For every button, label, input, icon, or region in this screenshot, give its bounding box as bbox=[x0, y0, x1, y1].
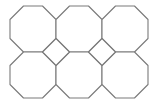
octagon-group bbox=[10, 6, 148, 98]
tiling-diagram bbox=[0, 0, 159, 109]
